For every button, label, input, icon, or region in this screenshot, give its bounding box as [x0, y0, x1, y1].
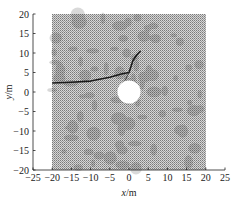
y-tick-label: 10 — [19, 48, 29, 59]
mesh-fracture-plot: −25−20−15−10−50510152025 20151050−5−10−1… — [0, 0, 236, 203]
y-tick-label: 0 — [24, 87, 29, 98]
x-tick-label: −5 — [104, 172, 115, 183]
y-tick-label: 20 — [19, 9, 29, 20]
x-tick-label: 25 — [220, 172, 230, 183]
x-tick-label: 0 — [127, 172, 132, 183]
x-axis-label: x/m — [120, 187, 136, 198]
excavation-hole — [117, 80, 140, 103]
x-tick-label: −20 — [44, 172, 60, 183]
y-axis-ticks: 20151050−5−10−15−20 — [13, 9, 35, 176]
y-tick-label: −15 — [13, 145, 29, 156]
x-tick-label: 10 — [162, 172, 172, 183]
y-tick-label: −20 — [13, 165, 29, 176]
y-tick-label: −5 — [18, 106, 29, 117]
x-tick-label: −10 — [83, 172, 99, 183]
y-tick-label: 5 — [24, 67, 29, 78]
x-tick-label: −15 — [64, 172, 80, 183]
y-tick-label: −10 — [13, 126, 29, 137]
x-tick-label: 15 — [182, 172, 192, 183]
y-axis-label: y/m — [3, 84, 14, 100]
x-tick-label: 20 — [201, 172, 211, 183]
y-tick-label: 15 — [19, 28, 29, 39]
x-tick-label: 5 — [146, 172, 151, 183]
